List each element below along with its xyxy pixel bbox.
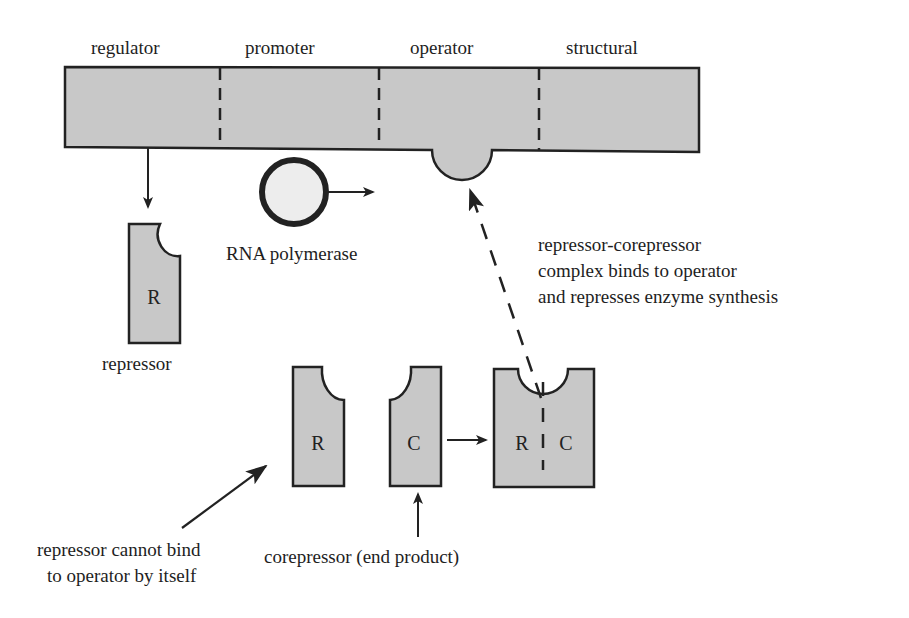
c-shape-letter: C <box>407 432 420 455</box>
r-shape <box>293 367 344 486</box>
label-promoter: promoter <box>245 36 315 60</box>
repressor-letter: R <box>147 286 160 309</box>
rna-polymerase-circle <box>262 160 326 224</box>
r-shape-letter: R <box>311 432 324 455</box>
label-regulator: regulator <box>91 36 160 60</box>
cannot-bind-line1: repressor cannot bind <box>37 538 201 562</box>
label-corepressor: corepressor (end product) <box>264 545 459 569</box>
label-repressor: repressor <box>102 352 172 376</box>
complex-c-letter: C <box>559 432 572 455</box>
diagram-canvas <box>0 0 909 618</box>
c-shape <box>390 367 441 486</box>
cannot-bind-arrow <box>182 466 266 528</box>
complex-note-line2: complex binds to operator <box>538 259 737 283</box>
complex-note-line3: and represses enzyme synthesis <box>538 285 778 309</box>
gene-bar <box>65 67 699 180</box>
label-structural: structural <box>566 36 638 60</box>
label-rna-polymerase: RNA polymerase <box>226 242 357 266</box>
cannot-bind-line2: to operator by itself <box>47 564 196 588</box>
binding-arrow <box>470 190 541 398</box>
label-operator: operator <box>410 36 473 60</box>
complex-note-line1: repressor-corepressor <box>538 233 701 257</box>
complex-r-letter: R <box>515 432 528 455</box>
repressor-shape <box>129 224 180 343</box>
